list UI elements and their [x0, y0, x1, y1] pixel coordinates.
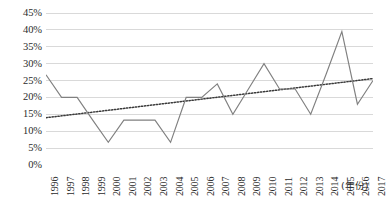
x-tick-label: 2017	[377, 177, 387, 196]
x-tick-label: 2000	[112, 177, 122, 196]
y-tick-label: 20%	[23, 92, 42, 103]
x-tick-label: 2014	[330, 177, 340, 196]
y-tick-label: 40%	[23, 25, 42, 36]
x-tick-label: 2013	[315, 177, 325, 196]
x-tick-label: 2011	[284, 177, 294, 196]
y-tick-label: 30%	[23, 59, 42, 70]
y-tick-label: 25%	[23, 76, 42, 87]
x-tick-label: 2008	[237, 177, 247, 196]
y-tick-label: 35%	[23, 42, 42, 53]
y-tick-label: 10%	[23, 126, 42, 137]
x-tick-label: 2009	[252, 177, 262, 196]
y-tick-label: 15%	[23, 109, 42, 120]
x-tick-label: 2007	[221, 177, 231, 196]
y-axis: 45% 40% 35% 30% 25% 20% 15% 10% 5% 0%	[0, 0, 44, 178]
x-axis: 1996199719981999200020012002200320042005…	[46, 166, 373, 201]
y-tick-label: 5%	[28, 143, 42, 154]
x-tick-label: 2006	[206, 177, 216, 196]
x-tick-label: 2002	[143, 177, 153, 196]
data-series-line	[46, 32, 373, 143]
trend-line	[46, 79, 373, 118]
plot-area	[46, 13, 373, 165]
x-tick-label: 1998	[81, 177, 91, 196]
x-tick-label: 2003	[159, 177, 169, 196]
x-tick-label: 2012	[299, 177, 309, 196]
x-axis-title: (年份)	[341, 181, 368, 191]
y-tick-label: 0%	[28, 160, 42, 171]
x-tick-label: 2005	[190, 177, 200, 196]
x-tick-label: 1996	[50, 177, 60, 196]
y-tick-label: 45%	[23, 8, 42, 19]
x-tick-label: 2001	[128, 177, 138, 196]
x-tick-label: 1997	[66, 177, 76, 196]
gridlines	[46, 13, 373, 165]
x-tick-label: 2010	[268, 177, 278, 196]
x-tick-label: 1999	[97, 177, 107, 196]
x-tick-label: 2004	[175, 177, 185, 196]
plot-svg	[46, 13, 373, 165]
